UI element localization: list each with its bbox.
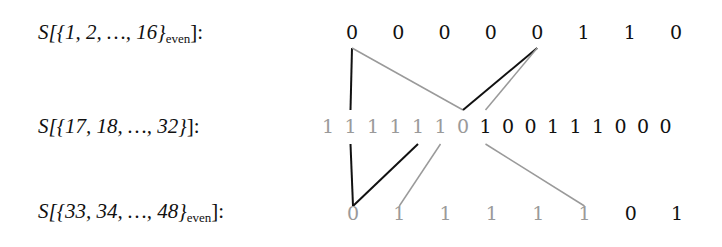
bit-top-1: 0: [392, 23, 404, 42]
bit-mid-14: 0: [637, 117, 649, 136]
connection-line: [486, 144, 585, 206]
bit-mid-9: 0: [524, 117, 536, 136]
bit-top-5: 1: [577, 23, 589, 42]
connection-line: [353, 144, 418, 206]
connection-line: [463, 48, 537, 110]
bit-mid-5: 1: [434, 117, 446, 136]
bit-bot-2: 1: [440, 204, 452, 223]
bit-mid-2: 1: [367, 117, 379, 136]
connection-line: [352, 48, 463, 110]
bit-top-7: 0: [670, 23, 682, 42]
bit-mid-3: 1: [389, 117, 401, 136]
bit-top-6: 1: [624, 23, 636, 42]
bit-top-3: 0: [485, 23, 497, 42]
bit-mid-4: 1: [412, 117, 424, 136]
bit-bot-7: 1: [671, 204, 683, 223]
bit-top-4: 0: [531, 23, 543, 42]
connection-line: [399, 144, 440, 206]
bit-mid-7: 1: [479, 117, 491, 136]
bit-mid-12: 1: [592, 117, 604, 136]
connection-line: [351, 144, 354, 206]
connection-line: [351, 48, 353, 110]
bit-bot-6: 0: [625, 204, 637, 223]
connection-line: [486, 48, 538, 110]
bit-mid-1: 1: [344, 117, 356, 136]
bit-mid-11: 1: [569, 117, 581, 136]
bit-mid-6: 0: [457, 117, 469, 136]
bit-mid-0: 1: [322, 117, 334, 136]
bit-bot-4: 1: [532, 204, 544, 223]
bit-mid-10: 1: [547, 117, 559, 136]
bit-mid-8: 0: [502, 117, 514, 136]
bit-bot-3: 1: [486, 204, 498, 223]
bit-mid-13: 0: [614, 117, 626, 136]
bit-bot-1: 1: [393, 204, 405, 223]
bit-bot-5: 1: [578, 204, 590, 223]
bit-top-0: 0: [346, 23, 358, 42]
bit-bot-0: 0: [347, 204, 359, 223]
bit-mid-15: 0: [659, 117, 671, 136]
bit-top-2: 0: [439, 23, 451, 42]
